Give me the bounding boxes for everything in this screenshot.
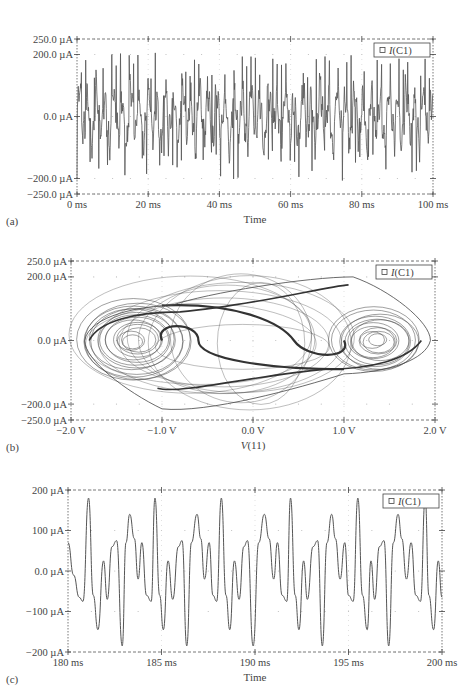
x-tick-label: 80 ms (349, 199, 374, 210)
y-tick-label: 250.0 µA (33, 34, 73, 45)
x-tick-label: 20 ms (136, 199, 161, 210)
y-tick-label: 200 µA (32, 485, 64, 496)
x-tick-label: −1.0 V (147, 425, 176, 436)
x-tick-label: 185 ms (146, 657, 177, 668)
y-tick-label: 0.0 µA (44, 111, 74, 122)
y-tick-label: 200.0 µA (33, 49, 73, 60)
y-tick-label: 0.0 µA (35, 566, 65, 577)
legend: I(C1) (376, 265, 432, 279)
legend: I(C1) (383, 494, 439, 508)
y-tick-label: 100 µA (32, 525, 64, 536)
chart-panel-c: 200 µA100 µA0.0 µA−100 µA−200 µA180 ms18… (6, 485, 457, 687)
panel-label: (a) (6, 215, 19, 228)
x-tick-label: 0.0 V (241, 425, 265, 436)
chart-panel-b: 250.0 µA200.0 µA0.0 µA−200.0 µA−250.0 µA… (6, 256, 447, 455)
y-tick-label: −200.0 µA (21, 399, 67, 410)
x-axis-label: V(11) (241, 439, 266, 452)
y-tick-label: −100 µA (26, 606, 64, 617)
x-tick-label: 1.0 V (332, 425, 356, 436)
legend-label: I(C1) (397, 496, 421, 508)
y-axis-ticks: 200 µA100 µA0.0 µA−100 µA−200 µA (26, 485, 445, 658)
x-tick-label: 100 ms (418, 199, 449, 210)
legend-label: I(C1) (390, 267, 414, 279)
y-tick-label: 250.0 µA (27, 256, 67, 267)
y-tick-label: −250.0 µA (21, 415, 67, 426)
x-tick-label: 40 ms (207, 199, 232, 210)
y-tick-label: −250.0 µA (27, 189, 73, 200)
chart-panel-a: 250.0 µA200.0 µA0.0 µA−200.0 µA−250.0 µA… (6, 34, 448, 229)
x-tick-label: 195 ms (333, 657, 364, 668)
x-tick-label: 0 ms (67, 199, 87, 210)
x-axis-label: Time (244, 671, 267, 683)
x-tick-label: 2.0 V (423, 425, 447, 436)
y-tick-label: −200.0 µA (27, 173, 73, 184)
panel-label: (c) (6, 673, 19, 686)
panel-label: (b) (6, 441, 19, 454)
figure-canvas: 250.0 µA200.0 µA0.0 µA−200.0 µA−250.0 µA… (0, 0, 470, 696)
x-tick-label: 190 ms (240, 657, 271, 668)
y-tick-label: 0.0 µA (38, 335, 68, 346)
x-axis-ticks: −2.0 V−1.0 V0.0 V1.0 V2.0 V (56, 258, 447, 436)
series-b (69, 274, 430, 410)
legend: I(C1) (374, 43, 430, 57)
x-axis-label: Time (244, 213, 267, 225)
x-tick-label: 180 ms (53, 657, 84, 668)
y-tick-label: −200 µA (26, 647, 64, 658)
x-tick-label: −2.0 V (56, 425, 85, 436)
x-tick-label: 200 ms (427, 657, 458, 668)
y-tick-label: 200.0 µA (27, 271, 67, 282)
legend-label: I(C1) (388, 45, 412, 57)
x-tick-label: 60 ms (278, 199, 303, 210)
